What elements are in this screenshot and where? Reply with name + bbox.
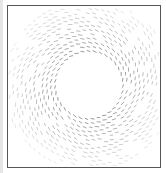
figure-canvas: [0, 0, 166, 173]
vector-field: [8, 6, 160, 167]
left-edge-strip: [0, 0, 3, 173]
plot-frame: [7, 5, 161, 168]
circular-obstacle: [57, 53, 121, 117]
